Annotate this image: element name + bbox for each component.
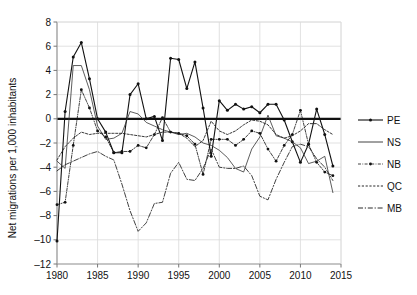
x-tick-label: 1985 — [86, 270, 109, 281]
x-tick-label: 2005 — [249, 270, 272, 281]
y-tick-label: –12 — [34, 259, 51, 270]
data-point-nb — [88, 107, 91, 110]
data-point-nb — [299, 109, 302, 112]
y-tick-label: 4 — [45, 65, 51, 76]
legend-item-ns[interactable]: NS — [358, 137, 401, 148]
data-point-nb — [129, 150, 132, 153]
legend-marker-pe — [369, 119, 372, 122]
series-line-mb — [57, 144, 333, 231]
legend-label-pe: PE — [387, 115, 401, 126]
x-tick-label: 2015 — [330, 270, 353, 281]
data-point-pe — [137, 82, 140, 85]
data-point-nb — [96, 130, 99, 133]
y-tick-label: –4 — [40, 162, 52, 173]
data-point-nb — [56, 203, 59, 206]
data-point-pe — [323, 133, 326, 136]
data-point-nb — [161, 116, 164, 119]
data-point-pe — [56, 240, 59, 243]
y-tick-label: –8 — [40, 210, 52, 221]
y-tick-label: –2 — [40, 138, 52, 149]
data-point-nb — [185, 134, 188, 137]
legend-item-mb[interactable]: MB — [358, 203, 402, 214]
data-point-nb — [258, 132, 261, 135]
y-tick-label: 6 — [45, 41, 51, 52]
data-point-nb — [275, 160, 278, 163]
data-point-nb — [72, 144, 75, 147]
x-tick-label: 2010 — [289, 270, 312, 281]
data-point-pe — [226, 109, 229, 112]
y-tick-label: 0 — [45, 113, 51, 124]
data-point-pe — [299, 161, 302, 164]
legend-label-qc: QC — [387, 181, 402, 192]
net-migration-line-chart: 86420–2–4–6–8–10–12198019851990199520002… — [0, 0, 417, 295]
data-point-pe — [88, 77, 91, 80]
data-point-pe — [161, 139, 164, 142]
data-point-pe — [153, 115, 156, 118]
series-line-ns — [57, 66, 333, 193]
gridlines — [57, 22, 341, 264]
data-point-pe — [177, 58, 180, 61]
x-tick-label: 1995 — [168, 270, 191, 281]
data-point-nb — [145, 146, 148, 149]
data-point-nb — [283, 144, 286, 147]
data-point-pe — [169, 57, 172, 60]
data-point-nb — [137, 144, 140, 147]
data-point-nb — [80, 88, 83, 91]
data-point-pe — [258, 111, 261, 114]
x-tick-label: 1990 — [127, 270, 150, 281]
data-point-pe — [64, 110, 67, 113]
series-ns — [57, 66, 333, 193]
y-tick-label: –10 — [34, 234, 51, 245]
legend-marker-nb — [369, 163, 372, 166]
series-mb — [57, 144, 333, 231]
data-point-nb — [64, 201, 67, 204]
data-point-pe — [250, 105, 253, 108]
data-point-nb — [210, 138, 213, 141]
legend-label-mb: MB — [387, 203, 402, 214]
y-tick-label: 2 — [45, 89, 51, 100]
y-tick-label: –6 — [40, 186, 52, 197]
data-point-pe — [210, 155, 213, 158]
data-point-pe — [145, 117, 148, 120]
x-tick-label: 2000 — [208, 270, 231, 281]
legend-item-qc[interactable]: QC — [358, 181, 402, 192]
data-point-pe — [185, 87, 188, 90]
data-point-pe — [283, 119, 286, 122]
data-point-pe — [193, 60, 196, 63]
legend-label-nb: NB — [387, 159, 401, 170]
legend-item-nb[interactable]: NB — [358, 159, 401, 170]
data-point-nb — [315, 161, 318, 164]
data-point-pe — [234, 103, 237, 106]
data-point-pe — [72, 56, 75, 59]
legend: PENSNBQCMB — [358, 115, 402, 214]
legend-label-ns: NS — [387, 137, 401, 148]
data-point-nb — [323, 171, 326, 174]
data-point-pe — [331, 164, 334, 167]
data-point-pe — [315, 108, 318, 111]
data-point-nb — [242, 138, 245, 141]
data-point-nb — [307, 143, 310, 146]
data-point-nb — [226, 138, 229, 141]
data-point-pe — [242, 108, 245, 111]
chart-canvas: 86420–2–4–6–8–10–12198019851990199520002… — [0, 0, 417, 295]
data-point-nb — [331, 174, 334, 177]
legend-item-pe[interactable]: PE — [358, 115, 401, 126]
data-point-pe — [275, 103, 278, 106]
data-point-nb — [104, 136, 107, 139]
x-tick-label: 1980 — [46, 270, 69, 281]
data-point-nb — [218, 138, 221, 141]
data-point-pe — [202, 106, 205, 109]
data-point-nb — [250, 130, 253, 133]
data-point-nb — [267, 148, 270, 151]
axis-tick-labels: 86420–2–4–6–8–10–12198019851990199520002… — [34, 17, 352, 281]
y-axis-title: Net migrations per 1,000 inhabitants — [7, 78, 18, 239]
data-point-pe — [218, 99, 221, 102]
data-point-nb — [112, 151, 115, 154]
data-point-pe — [129, 93, 132, 96]
data-point-nb — [234, 144, 237, 147]
y-tick-label: 8 — [45, 17, 51, 28]
data-point-pe — [80, 41, 83, 44]
data-point-pe — [266, 103, 269, 106]
data-point-nb — [202, 173, 205, 176]
data-point-nb — [121, 150, 124, 153]
